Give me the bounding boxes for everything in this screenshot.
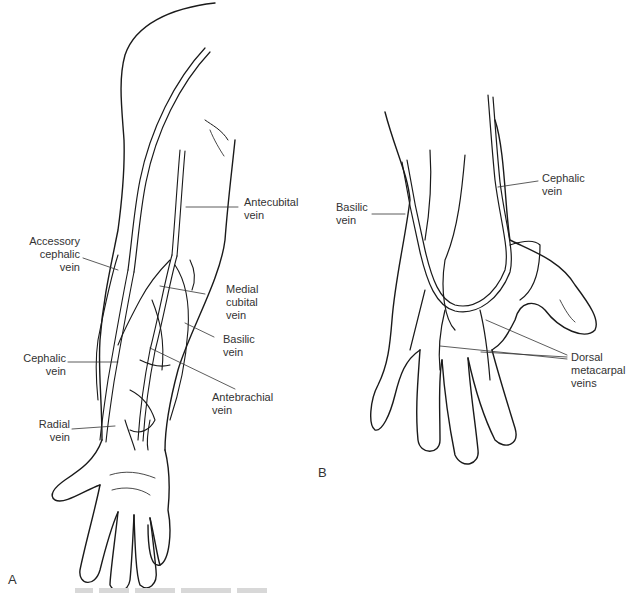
label-line: Accessory [20, 235, 80, 248]
label-line: vein [542, 185, 585, 198]
label-line: Cephalic [10, 352, 66, 365]
label-line: Antebrachial [212, 391, 273, 404]
panel-letter-a: A [8, 572, 17, 587]
label-line: vein [10, 365, 66, 378]
hand-b-veins [402, 95, 540, 380]
label-line: vein [212, 404, 273, 417]
label-accessory-cephalic-vein: Accessory cephalic vein [20, 235, 80, 274]
label-antecubital-vein: Antecubital vein [244, 196, 298, 222]
label-basilic-vein-a: Basilic vein [223, 333, 255, 359]
label-line: Medial [226, 283, 258, 296]
label-line: Cephalic [542, 172, 585, 185]
label-medial-cubital-vein: Medial cubital vein [226, 283, 258, 322]
panel-letter-b: B [318, 465, 327, 480]
antecubital-vein-stub [172, 150, 185, 256]
forearm-veins [96, 255, 194, 450]
label-line: Basilic [336, 201, 368, 214]
label-line: vein [226, 309, 258, 322]
upper-arm-vein [128, 48, 210, 272]
label-line: vein [223, 346, 255, 359]
label-line: Radial [20, 418, 70, 431]
label-radial-vein: Radial vein [20, 418, 70, 444]
label-basilic-vein-b: Basilic vein [336, 201, 368, 227]
label-line: vein [20, 261, 80, 274]
label-line: Antecubital [244, 196, 298, 209]
figure-caption-faded [75, 588, 335, 594]
label-antebrachial-vein: Antebrachial vein [212, 391, 273, 417]
hand-a-outline [52, 440, 170, 591]
label-line: veins [571, 377, 625, 390]
label-line: Dorsal [571, 351, 625, 364]
label-cephalic-vein-b: Cephalic vein [542, 172, 585, 198]
label-line: vein [336, 214, 368, 227]
hand-b-outline [371, 112, 597, 464]
label-line: cephalic [20, 248, 80, 261]
anatomy-illustration [0, 0, 631, 599]
label-line: cubital [226, 296, 258, 309]
label-line: metacarpal [571, 364, 625, 377]
label-line: Basilic [223, 333, 255, 346]
arm-outline [99, 3, 235, 450]
label-cephalic-vein-a: Cephalic vein [10, 352, 66, 378]
label-line: vein [244, 209, 298, 222]
label-dorsal-metacarpal-veins: Dorsal metacarpal veins [571, 351, 625, 390]
label-line: vein [20, 431, 70, 444]
